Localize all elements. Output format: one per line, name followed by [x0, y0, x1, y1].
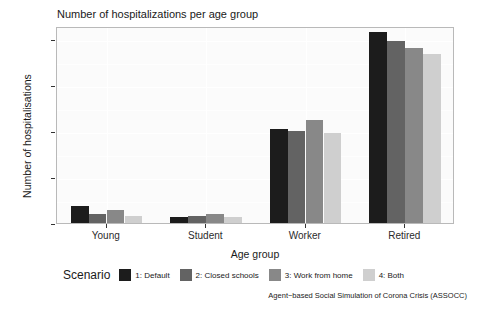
bar — [387, 41, 405, 223]
x-tick-label: Worker — [289, 230, 321, 241]
chart-title: Number of hospitalizations per age group — [57, 8, 258, 20]
chart-figure: Number of hospitalizations per age group… — [0, 0, 477, 313]
x-tick-mark — [404, 224, 405, 228]
bar — [206, 214, 224, 223]
bar — [71, 206, 89, 223]
x-axis-title: Age group — [55, 248, 455, 260]
legend-label: 2: Closed schools — [196, 271, 259, 280]
legend: Scenario 1: Default2: Closed schools3: W… — [0, 268, 477, 282]
bar — [405, 48, 423, 223]
legend-swatch-icon — [180, 269, 192, 281]
x-tick-label: Young — [92, 230, 120, 241]
legend-item[interactable]: 1: Default — [119, 269, 169, 281]
legend-swatch-icon — [119, 269, 131, 281]
bar — [324, 133, 342, 223]
x-tick-mark — [305, 224, 306, 228]
y-tick-mark — [51, 224, 55, 225]
x-tick-mark — [106, 224, 107, 228]
bar — [224, 217, 242, 223]
y-tick-mark — [51, 40, 55, 41]
bar — [125, 216, 143, 223]
bar — [89, 214, 107, 223]
bar — [270, 129, 288, 223]
plot-area — [57, 28, 453, 223]
bar — [306, 120, 324, 223]
bar — [423, 54, 441, 223]
legend-title: Scenario — [63, 268, 110, 282]
legend-swatch-icon — [269, 269, 281, 281]
bar — [107, 210, 125, 223]
legend-item[interactable]: 2: Closed schools — [180, 269, 259, 281]
gridline-vertical — [206, 28, 207, 223]
bar — [288, 131, 306, 223]
gridline-vertical — [107, 28, 108, 223]
legend-item[interactable]: 3: Work from home — [269, 269, 353, 281]
figure-caption: Agent−based Social Simulation of Corona … — [268, 291, 467, 300]
legend-label: 4: Both — [379, 271, 404, 280]
bar — [170, 217, 188, 223]
y-axis-title: Number of hospitalisations — [21, 36, 33, 236]
y-tick-mark — [51, 178, 55, 179]
y-tick-mark — [51, 86, 55, 87]
legend-swatch-icon — [363, 269, 375, 281]
legend-item[interactable]: 4: Both — [363, 269, 404, 281]
bar — [188, 216, 206, 223]
plot-panel — [56, 27, 454, 224]
legend-label: 1: Default — [135, 271, 169, 280]
x-tick-mark — [205, 224, 206, 228]
legend-label: 3: Work from home — [285, 271, 353, 280]
x-tick-label: Retired — [388, 230, 420, 241]
gridline-major — [57, 225, 453, 226]
bar — [369, 32, 387, 223]
y-tick-mark — [51, 132, 55, 133]
x-tick-label: Student — [188, 230, 222, 241]
